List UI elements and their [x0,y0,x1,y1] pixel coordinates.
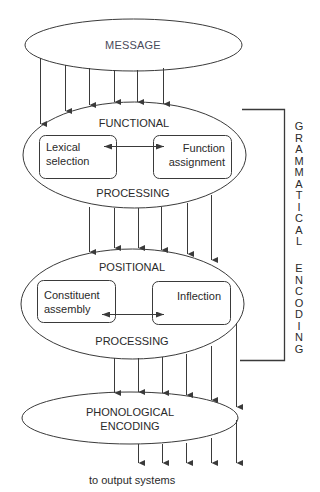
functional-processing-label: PROCESSING [83,187,183,199]
phonological-label-line2: ENCODING [80,420,180,432]
bracket-letter: M [292,167,306,179]
bracket-word-gap [292,248,306,263]
diagram-canvas [0,0,320,492]
function-assignment-label-line1: Function [160,142,225,154]
constituent-assembly-box [38,281,116,323]
lexical-selection-label-line2: selection [46,155,89,167]
positional-label: POSITIONAL [82,261,182,273]
bracket-letter: C [292,286,306,298]
functional-label: FUNCTIONAL [84,117,184,129]
output-systems-label: to output systems [89,474,175,486]
inflection-box [153,282,231,325]
positional-processing-label: PROCESSING [82,335,182,347]
grammatical-encoding-bracket [240,110,285,361]
lexical-selection-label-line1: Lexical [46,141,80,153]
bracket-letter: G [292,344,306,356]
grammatical-encoding-label: G R A M M A T I C A L E N C O D I N G [292,121,306,355]
constituent-assembly-label-line2: assembly [44,303,90,315]
constituent-assembly-label-line1: Constituent [44,289,100,301]
phonological-encoding-ellipse [22,392,238,444]
bracket-letter: L [292,236,306,248]
message-label: MESSAGE [83,39,183,51]
bracket-letter: A [292,144,306,156]
inflection-label: Inflection [160,290,221,302]
bracket-letter: G [292,121,306,133]
bracket-letter: E [292,263,306,275]
phonological-label-line1: PHONOLOGICAL [80,406,180,418]
function-assignment-label-line2: assignment [160,156,225,168]
